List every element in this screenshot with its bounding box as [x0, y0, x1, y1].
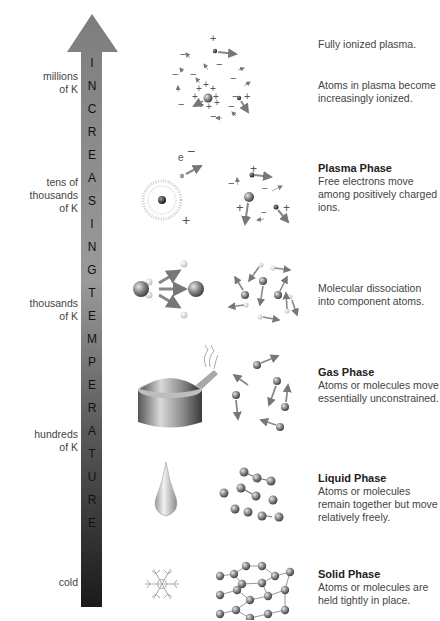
arrow-letter: E — [88, 309, 96, 332]
row-text: Atoms in plasma become increasingly ioni… — [318, 79, 440, 105]
svg-text:−: − — [216, 58, 222, 70]
svg-text:−: − — [178, 98, 184, 110]
arrow-letter: G — [87, 263, 96, 286]
temp-label-line: tens of — [30, 176, 78, 189]
fully-ionized-plasma-illustration: + −− −−− −−−− +++ ++ +++ + — [170, 28, 270, 128]
arrow-vertical-label: I N C R E A S I N G T E M P E R A T U R … — [81, 56, 103, 539]
temp-label-cold: cold — [59, 576, 78, 589]
row-liquid-phase-description: Liquid Phase Atoms or molecules remain t… — [318, 472, 440, 524]
arrow-letter: I — [90, 56, 93, 79]
row-title: Solid Phase — [318, 568, 440, 581]
svg-text:−: − — [261, 207, 267, 218]
arrow-letter: P — [88, 355, 96, 378]
solid-phase-illustration — [140, 550, 315, 620]
temp-label-line: of K — [43, 83, 78, 96]
svg-text:+: + — [203, 79, 209, 90]
arrow-letter: A — [88, 424, 96, 447]
temp-label-hundreds: hundreds of K — [34, 428, 78, 454]
svg-text:+: + — [283, 201, 290, 215]
arrow-letter: U — [88, 470, 97, 493]
arrow-letter: E — [88, 378, 96, 401]
svg-text:−: − — [187, 143, 195, 159]
row-increasingly-ionized-description: Atoms in plasma become increasingly ioni… — [318, 79, 440, 105]
temp-label-line: thousands — [30, 189, 78, 202]
temp-label-thousands: thousands of K — [30, 297, 78, 323]
row-text: Free electrons move among positively cha… — [318, 175, 440, 214]
svg-text:+: + — [236, 200, 244, 215]
svg-text:+: + — [198, 99, 204, 110]
arrow-letter: I — [90, 217, 93, 240]
svg-text:+: + — [206, 101, 212, 112]
svg-text:−: − — [190, 68, 196, 80]
arrow-letter: T — [88, 286, 95, 309]
temp-label-millions: millions of K — [43, 70, 78, 96]
row-fully-ionized-description: Fully ionized plasma. — [318, 38, 440, 51]
svg-text:−: − — [180, 48, 186, 60]
row-title: Plasma Phase — [318, 162, 440, 175]
arrow-letter: E — [88, 516, 96, 539]
temp-label-tens-of-thousands: tens of thousands of K — [30, 176, 78, 215]
svg-text:−: − — [228, 177, 234, 189]
arrow-letter: S — [88, 194, 96, 217]
arrow-letter: R — [88, 401, 97, 424]
temp-label-line: cold — [59, 576, 78, 589]
arrow-letter: A — [88, 171, 96, 194]
temp-label-line: millions — [43, 70, 78, 83]
svg-text:−: − — [262, 183, 268, 194]
svg-text:+: + — [182, 212, 190, 228]
temp-label-line: of K — [30, 310, 78, 323]
row-text: Fully ionized plasma. — [318, 38, 440, 51]
row-plasma-phase-description: Plasma Phase Free electrons move among p… — [318, 162, 440, 214]
snowflake-icon — [145, 569, 179, 599]
arrow-letter: E — [88, 148, 96, 171]
row-title: Gas Phase — [318, 366, 440, 379]
temp-label-line: of K — [34, 441, 78, 454]
temp-label-line: hundreds — [34, 428, 78, 441]
row-solid-phase-description: Solid Phase Atoms or molecules are held … — [318, 568, 440, 607]
liquid-phase-illustration — [150, 460, 320, 525]
arrow-letter: N — [88, 79, 97, 102]
plasma-phase-illustration: e − + + − − + + − — [140, 140, 310, 250]
svg-text:−: − — [230, 72, 236, 84]
plus-charge: + — [210, 32, 216, 44]
svg-text:e: e — [178, 152, 184, 163]
water-drop-icon — [155, 462, 177, 516]
row-text: Atoms or molecules are held tightly in p… — [318, 581, 440, 607]
arrow-letter: N — [88, 240, 97, 263]
arrow-letter: T — [88, 447, 95, 470]
row-text: Molecular dissociation into component at… — [318, 282, 440, 308]
arrow-letter: R — [88, 125, 97, 148]
svg-text:+: + — [214, 97, 220, 108]
arrow-letter: C — [88, 102, 97, 125]
row-title: Liquid Phase — [318, 472, 440, 485]
row-dissociation-description: Molecular dissociation into component at… — [318, 282, 440, 308]
row-text: Atoms or molecules move essentially unco… — [318, 379, 440, 405]
temp-label-line: of K — [30, 202, 78, 215]
kettle-icon — [138, 345, 218, 428]
svg-text:−: − — [172, 68, 178, 80]
arrow-letter: M — [87, 332, 97, 355]
svg-text:−: − — [232, 90, 238, 102]
row-text: Atoms or molecules remain together but m… — [318, 485, 440, 524]
molecular-dissociation-illustration — [125, 255, 315, 325]
gas-phase-illustration — [130, 345, 310, 440]
arrow-letter: R — [88, 493, 97, 516]
row-gas-phase-description: Gas Phase Atoms or molecules move essent… — [318, 366, 440, 405]
temp-label-line: thousands — [30, 297, 78, 310]
svg-text:+: + — [244, 90, 250, 102]
